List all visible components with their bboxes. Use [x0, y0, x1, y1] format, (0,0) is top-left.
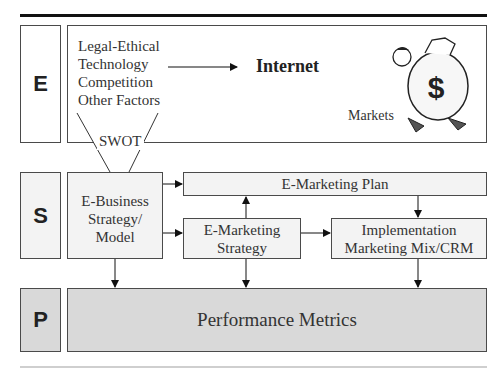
flow-arrows: [0, 0, 502, 374]
